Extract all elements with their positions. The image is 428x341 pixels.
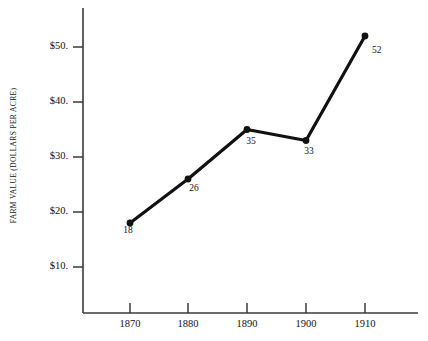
data-point-marker-1870: [127, 220, 134, 227]
data-point-marker-1910: [362, 33, 369, 40]
data-point-marker-1890: [244, 126, 251, 133]
data-point-marker-1900: [303, 137, 310, 144]
data-point-marker-1880: [185, 176, 192, 183]
line-chart: FARM VALUE (DOLLARS PER ACRE) $50. $40. …: [0, 0, 428, 341]
plot-area: [0, 0, 428, 341]
